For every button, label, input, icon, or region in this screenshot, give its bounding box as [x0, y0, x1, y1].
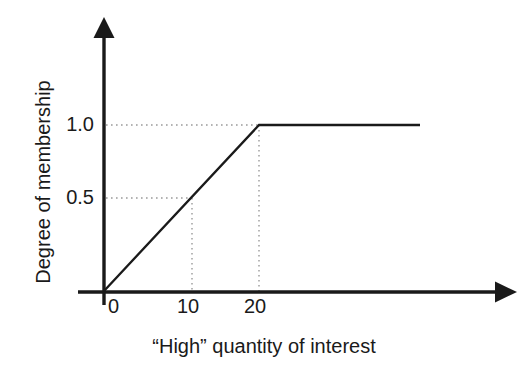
x-tick-label-10: 10: [177, 296, 199, 316]
x-tick-label-0: 0: [108, 296, 119, 316]
membership-function-chart: 1.0 0.5 0 10 20 “High” quantity of inter…: [0, 0, 528, 376]
x-axis-title: “High” quantity of interest: [0, 336, 528, 356]
y-tick-label-1.0: 1.0: [66, 114, 94, 134]
x-tick-label-20: 20: [244, 296, 266, 316]
y-axis-title: Degree of membership: [33, 57, 53, 307]
y-axis-arrowhead-icon: [94, 17, 115, 38]
y-tick-label-0.5: 0.5: [66, 187, 94, 207]
x-axis-arrowhead-icon: [495, 282, 517, 303]
membership-function-line: [104, 125, 420, 291]
